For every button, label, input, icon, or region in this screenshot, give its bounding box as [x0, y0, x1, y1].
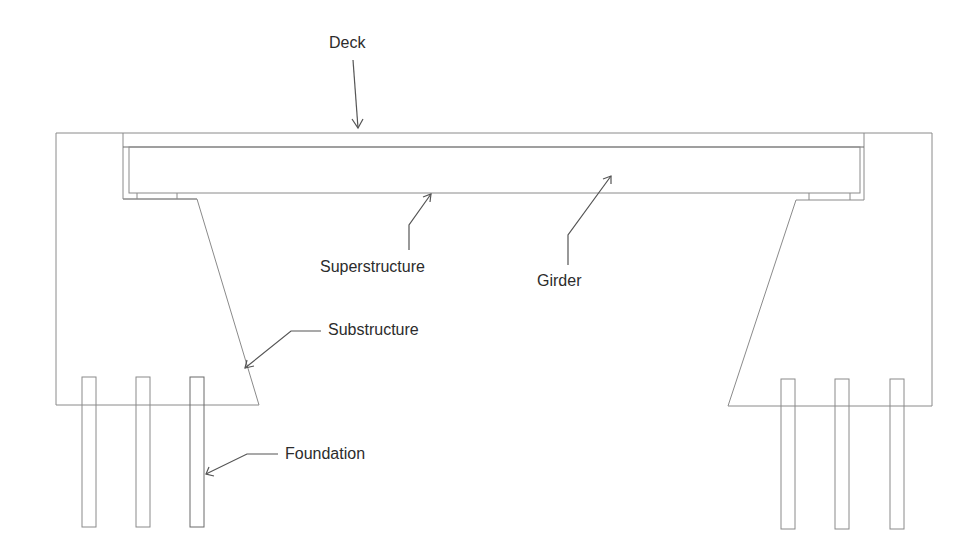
left-pile-3 — [190, 377, 204, 527]
label-superstructure: Superstructure — [320, 259, 425, 275]
right-pile-3 — [890, 379, 904, 529]
left-abutment-outline — [56, 133, 259, 405]
label-deck: Deck — [329, 35, 365, 51]
girder — [129, 147, 860, 193]
girder-arrow-icon — [568, 176, 611, 265]
left-pile-1 — [82, 377, 96, 527]
deck-arrow-icon — [352, 60, 363, 128]
bridge-drawing — [0, 0, 974, 560]
right-abutment-outline — [728, 133, 932, 406]
right-pile-2 — [835, 379, 849, 529]
left-pile-2 — [136, 377, 150, 527]
label-substructure: Substructure — [328, 322, 419, 338]
substructure-arrow-icon — [245, 331, 321, 368]
right-pile-1 — [781, 379, 795, 529]
label-foundation: Foundation — [285, 446, 365, 462]
foundation-arrow-icon — [206, 454, 278, 476]
superstructure-arrow-icon — [409, 194, 431, 250]
label-girder: Girder — [537, 273, 581, 289]
